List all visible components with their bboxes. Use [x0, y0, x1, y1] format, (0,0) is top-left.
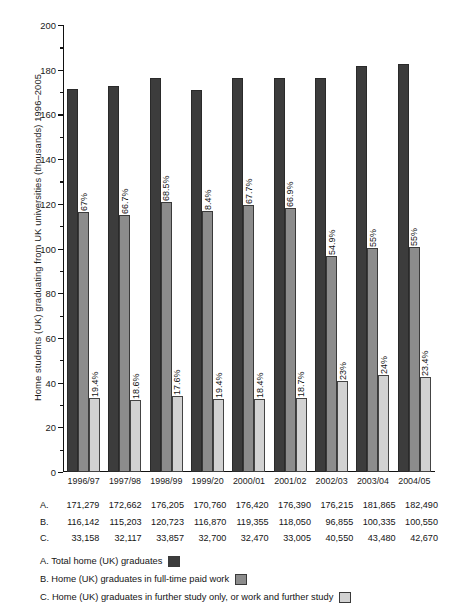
bar-b[interactable]: 55% [367, 248, 378, 472]
bar-value-label: 55% [409, 228, 419, 246]
y-tick-label: 100 [40, 243, 56, 254]
y-tick-label: 120 [40, 198, 56, 209]
bar-c[interactable]: 23% [337, 381, 348, 472]
bar-c[interactable]: 18.4% [254, 399, 265, 472]
bar-group: 8.4%19.4% [187, 25, 228, 472]
table-cell: 32,700 [186, 533, 228, 543]
bar-a[interactable] [315, 78, 326, 472]
bar-group: 54.9%23% [311, 25, 352, 472]
chart-legend: A. Total home (UK) graduatesB. Home (UK)… [40, 552, 450, 604]
bar-value-label: 66.7% [120, 188, 130, 214]
legend-item: B. Home (UK) graduates in full-time paid… [40, 570, 450, 588]
bar-group: 66.7%18.6% [104, 25, 145, 472]
bar-c[interactable]: 23.4% [420, 377, 431, 472]
bar-c[interactable]: 24% [378, 375, 389, 472]
bar-group: 68.5%17.6% [146, 25, 187, 472]
table-cell: 33,005 [271, 533, 313, 543]
table-row-label: C. [40, 533, 59, 543]
legend-item: C. Home (UK) graduates in further study … [40, 588, 450, 604]
table-cell: 40,550 [313, 533, 355, 543]
x-tick-label: 1998/99 [146, 476, 187, 486]
bar-b[interactable]: 8.4% [202, 211, 213, 472]
bar-a[interactable] [274, 78, 285, 472]
x-tick-label: 1996/97 [63, 476, 104, 486]
x-tick-label: 1997/98 [104, 476, 145, 486]
bar-b[interactable]: 66.9% [285, 208, 296, 472]
data-table: A.171,279172,662176,205170,760176,420176… [40, 500, 440, 550]
legend-item: A. Total home (UK) graduates [40, 552, 450, 570]
y-tick-label: 40 [46, 377, 56, 388]
table-cell: 176,390 [271, 500, 313, 510]
table-cell: 42,670 [398, 533, 440, 543]
table-cell: 100,335 [355, 517, 397, 527]
table-row: A.171,279172,662176,205170,760176,420176… [40, 500, 440, 517]
plot-area: 020406080100120140160180200 67%19.4%66.7… [63, 25, 435, 472]
table-cell: 176,420 [228, 500, 270, 510]
table-row: B.116,142115,203120,723116,870119,355118… [40, 517, 440, 534]
table-cell: 116,142 [59, 517, 101, 527]
table-cell: 120,723 [144, 517, 186, 527]
table-cell: 119,355 [228, 517, 270, 527]
table-cell: 115,203 [101, 517, 143, 527]
legend-label: A. Total home (UK) graduates [40, 556, 162, 566]
bar-a[interactable] [150, 78, 161, 472]
bar-group: 67%19.4% [63, 25, 104, 472]
y-tick-label: 0 [51, 467, 56, 478]
bar-a[interactable] [67, 89, 78, 472]
x-tick-label: 2004/05 [394, 476, 435, 486]
legend-label: C. Home (UK) graduates in further study … [40, 592, 333, 602]
bar-value-label: 18.6% [131, 374, 141, 400]
legend-swatch [235, 574, 247, 585]
table-cell: 96,855 [313, 517, 355, 527]
table-row-cells: 33,15832,11733,85732,70032,47033,00540,5… [59, 533, 440, 543]
table-cell: 170,760 [186, 500, 228, 510]
bar-b[interactable]: 66.7% [119, 215, 130, 472]
bar-a[interactable] [232, 78, 243, 472]
bar-c[interactable]: 17.6% [172, 396, 183, 472]
x-axis-tick-labels: 1996/971997/981998/991999/202000/012001/… [63, 476, 435, 486]
bar-value-label: 54.9% [327, 229, 337, 255]
y-tick-label: 60 [46, 332, 56, 343]
table-row-label: A. [40, 500, 59, 510]
bar-c[interactable]: 18.7% [296, 398, 307, 472]
bar-value-label: 67.7% [244, 179, 254, 205]
table-cell: 176,215 [313, 500, 355, 510]
legend-label: B. Home (UK) graduates in full-time paid… [40, 574, 229, 584]
table-row-cells: 116,142115,203120,723116,870119,355118,0… [59, 517, 440, 527]
table-row: C.33,15832,11733,85732,70032,47033,00540… [40, 533, 440, 550]
bar-c[interactable]: 19.4% [89, 398, 100, 472]
table-cell: 32,470 [228, 533, 270, 543]
bar-b[interactable]: 67.7% [243, 205, 254, 472]
bar-value-label: 19.4% [214, 372, 224, 398]
bar-a[interactable] [398, 64, 409, 472]
y-axis-title: Home students (UK) graduating from UK un… [32, 23, 43, 453]
x-tick-label: 1999/20 [187, 476, 228, 486]
bar-groups: 67%19.4%66.7%18.6%68.5%17.6%8.4%19.4%67.… [63, 25, 435, 472]
bar-a[interactable] [356, 66, 367, 472]
bar-a[interactable] [108, 86, 119, 472]
bar-value-label: 67% [79, 193, 89, 211]
table-row-cells: 171,279172,662176,205170,760176,420176,3… [59, 500, 440, 510]
bar-group: 55%24% [352, 25, 393, 472]
bar-value-label: 23.4% [420, 350, 430, 376]
bar-c[interactable]: 18.6% [130, 400, 141, 472]
bar-b[interactable]: 54.9% [326, 256, 337, 472]
bar-value-label: 8.4% [203, 189, 213, 210]
bar-value-label: 18.4% [255, 373, 265, 399]
bar-value-label: 23% [338, 362, 348, 380]
bar-b[interactable]: 68.5% [161, 202, 172, 472]
bar-value-label: 19.4% [90, 371, 100, 397]
bar-b[interactable]: 55% [409, 247, 420, 472]
table-cell: 43,480 [355, 533, 397, 543]
table-cell: 116,870 [186, 517, 228, 527]
table-cell: 32,117 [101, 533, 143, 543]
bar-value-label: 55% [368, 229, 378, 247]
bar-b[interactable]: 67% [78, 212, 89, 472]
y-tick-label: 180 [40, 64, 56, 75]
bar-a[interactable] [191, 90, 202, 472]
x-tick-label: 2000/01 [228, 476, 269, 486]
table-cell: 182,490 [398, 500, 440, 510]
y-tick-label: 80 [46, 288, 56, 299]
bar-c[interactable]: 19.4% [213, 399, 224, 472]
bar-value-label: 17.6% [172, 370, 182, 396]
